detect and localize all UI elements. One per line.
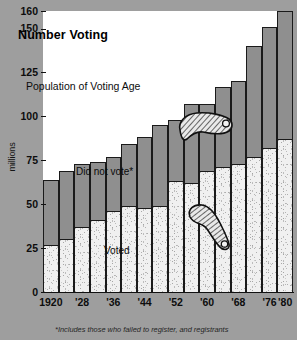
bar-segment-did-not-vote	[43, 180, 59, 245]
bar-column	[152, 11, 168, 292]
bar-column	[262, 11, 278, 292]
callout-blob-upper-icon	[176, 110, 234, 144]
y-tick-mark-100	[41, 116, 46, 117]
x-tick-label-1920: 1920	[39, 296, 62, 308]
y-tick-mark-50	[41, 204, 46, 205]
chart-title: Number Voting	[18, 28, 108, 42]
bar-segment-voted	[168, 181, 184, 292]
y-tick-label-100: 100	[12, 111, 38, 122]
bar-segment-did-not-vote	[137, 137, 153, 207]
bar-segment-voted	[137, 208, 153, 292]
bar-column	[43, 11, 59, 292]
bar-column	[137, 11, 153, 292]
bar-segment-did-not-vote	[277, 11, 293, 139]
bar-segment-voted	[74, 227, 90, 292]
y-tick-mark-25	[41, 248, 46, 249]
y-tick-label-75: 75	[12, 155, 38, 166]
x-tick-label-1976: '76	[262, 296, 276, 308]
x-axis-line	[43, 292, 294, 293]
bar-segment-voted	[90, 220, 106, 292]
x-tick-label-1960: '60	[200, 296, 214, 308]
bar-segment-voted	[59, 239, 75, 292]
bar-column	[74, 11, 90, 292]
plot-area	[43, 11, 293, 292]
bar-segment-voted	[43, 245, 59, 292]
y-tick-label-125: 125	[12, 67, 38, 78]
callout-blob-lower-icon	[186, 201, 234, 253]
x-tick-label-1944: '44	[137, 296, 151, 308]
voted-label: Voted	[104, 245, 130, 256]
y-tick-mark-160	[41, 11, 46, 12]
x-axis-tick-labels: 1920'28'36'44'52'60'68'76'80	[43, 296, 294, 312]
bar-segment-did-not-vote	[59, 171, 75, 239]
y-tick-label-160: 160	[12, 6, 38, 17]
y-axis-tick-labels: 0255075100125150160	[8, 0, 38, 340]
bar-segment-voted	[262, 148, 278, 292]
x-tick-label-1952: '52	[169, 296, 183, 308]
footnote: *Includes those who failed to register, …	[55, 325, 228, 334]
bar-column	[277, 11, 293, 292]
bar-segment-did-not-vote	[106, 157, 122, 211]
y-tick-label-50: 50	[12, 199, 38, 210]
x-tick-label-1928: '28	[75, 296, 89, 308]
did-not-vote-label: Did not vote*	[76, 166, 133, 177]
y-tick-mark-75	[41, 160, 46, 161]
bar-segment-did-not-vote	[152, 125, 168, 206]
x-tick-label-1936: '36	[106, 296, 120, 308]
bar-segment-voted	[246, 157, 262, 292]
bar-segment-voted	[152, 206, 168, 292]
bar-column	[246, 11, 262, 292]
y-tick-mark-125	[41, 72, 46, 73]
bar-segment-voted	[277, 139, 293, 292]
bar-segment-did-not-vote	[262, 27, 278, 148]
population-of-voting-age-label: Population of Voting Age	[26, 80, 140, 92]
x-tick-label-1968: '68	[231, 296, 245, 308]
bar-column	[168, 11, 184, 292]
y-tick-label-0: 0	[12, 287, 38, 298]
y-tick-mark-150	[41, 29, 46, 30]
x-tick-label-1980: '80	[278, 296, 292, 308]
chart-figure: millions 0255075100125150160 Number Voti…	[0, 0, 297, 340]
bar-series-container	[43, 11, 293, 292]
bar-column	[59, 11, 75, 292]
y-tick-mark-0	[41, 292, 46, 293]
y-tick-label-25: 25	[12, 243, 38, 254]
bar-segment-did-not-vote	[246, 46, 262, 157]
